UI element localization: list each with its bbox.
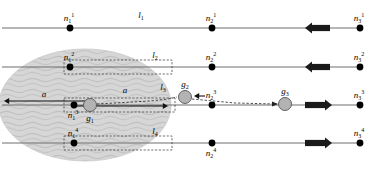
label-n-1-1: n11 [64,12,74,24]
block-arrow-head [325,99,332,110]
node-n-1-3[interactable] [71,102,78,109]
block-arrow-row-2 [305,61,330,72]
label-n-2-3: n23 [206,89,217,101]
node-n-2-1[interactable] [209,25,216,32]
block-arrow-row-1 [305,22,330,33]
node-n-3-4[interactable] [357,140,364,147]
block-arrow-head [305,22,312,33]
label-g-2: g2 [181,79,189,90]
diagram-canvas: n11n21n31l1n12n22n32l2n13n23n33l3n14n24n… [0,0,379,169]
label-n-2-1: n21 [206,12,217,24]
label-n-3-4: n34 [354,127,365,139]
node-n-1-1[interactable] [67,25,74,32]
glider-g-1[interactable] [84,99,97,112]
node-n-3-1[interactable] [357,25,364,32]
node-n-2-4[interactable] [209,140,216,147]
glider-2-direction-arrow [194,93,205,99]
label-n-2-2: n22 [206,51,217,63]
block-arrows-group [305,22,332,148]
node-n-1-4[interactable] [71,140,78,147]
node-n-2-3[interactable] [209,102,216,109]
label-l-1: l1 [138,10,144,21]
glider-g-3[interactable] [279,98,292,111]
block-arrow-shaft [312,25,330,31]
diagram-svg: n11n21n31l1n12n22n32l2n13n23n33l3n14n24n… [0,0,379,169]
trajectory-arrowhead-g3 [272,101,278,106]
label-a-right: a [123,85,128,95]
node-n-3-3[interactable] [357,102,364,109]
block-arrow-head [305,61,312,72]
label-n-3-1: n31 [354,12,365,24]
label-l-2: l2 [152,50,158,61]
label-n-3-3: n33 [354,89,365,101]
glider-g-2[interactable] [179,91,192,104]
node-n-1-2[interactable] [67,64,74,71]
label-a-left: a [42,89,47,99]
block-arrow-head [325,137,332,148]
block-arrow-shaft [312,64,330,70]
trajectory-g2-g3 [192,99,276,104]
node-n-2-2[interactable] [209,64,216,71]
block-arrow-row-3 [305,99,332,110]
block-arrow-shaft [305,102,325,108]
block-arrow-row-4 [305,137,332,148]
label-n-3-2: n32 [354,51,365,63]
label-n-2-4: n24 [206,147,217,159]
block-arrow-shaft [305,140,325,146]
label-g-3: g3 [281,86,289,97]
node-n-3-2[interactable] [357,64,364,71]
